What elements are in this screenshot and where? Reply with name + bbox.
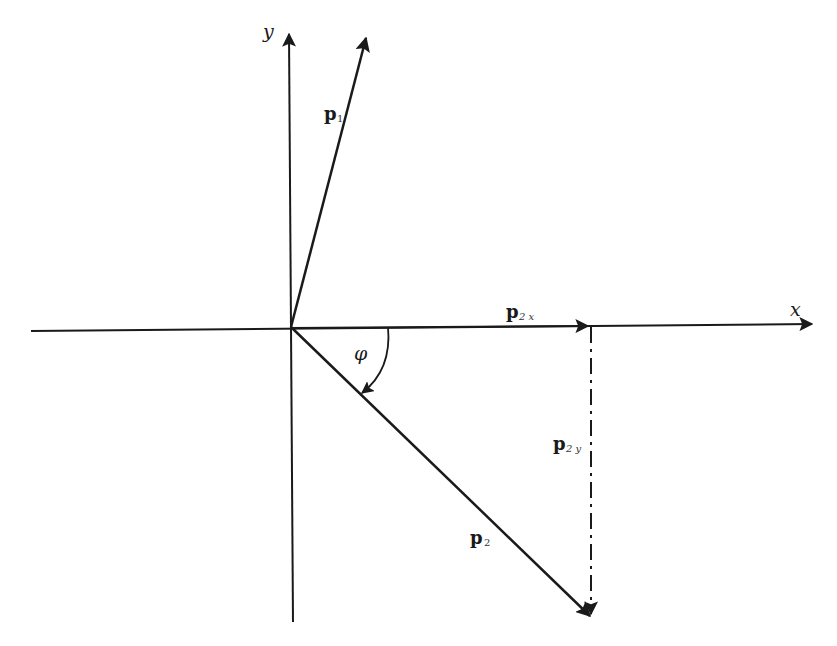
x-axis-label: x (790, 298, 801, 320)
label-p1: p 1 (324, 103, 343, 124)
angle-label-phi: φ (354, 342, 368, 364)
label-p2x: p 2 x (506, 301, 535, 322)
svg-text:2 y: 2 y (565, 443, 582, 454)
svg-text:p: p (470, 527, 483, 548)
y-axis-label: y (262, 20, 274, 42)
vector-p1 (291, 38, 366, 327)
svg-text:p: p (324, 103, 337, 124)
svg-text:2 x: 2 x (518, 311, 535, 322)
svg-text:p: p (553, 433, 566, 454)
label-p2: p 2 (470, 527, 490, 548)
label-p2y: p 2 y (553, 433, 582, 454)
svg-text:2: 2 (484, 537, 490, 548)
svg-text:1: 1 (337, 113, 343, 124)
vector-diagram: y x p 1 p 2 x p 2 y p 2 φ (0, 0, 837, 646)
svg-text:p: p (506, 301, 519, 322)
vector-p2x (291, 326, 588, 328)
vector-p2 (291, 327, 590, 616)
